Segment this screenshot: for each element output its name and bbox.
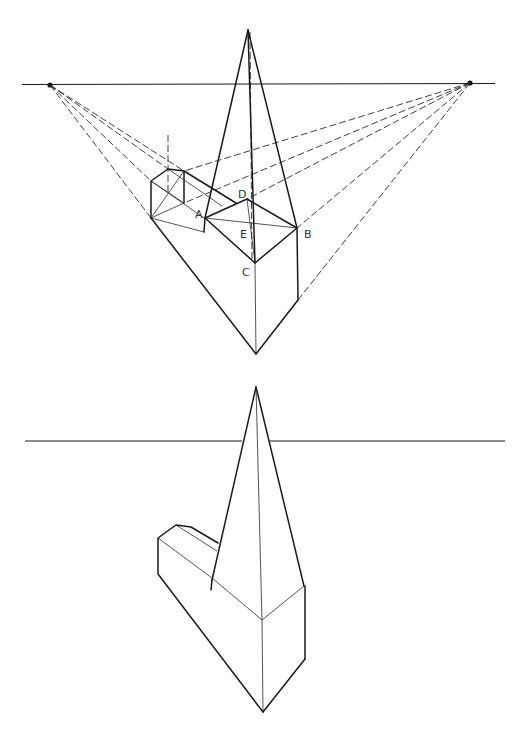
right-vp-construction-lines	[184, 83, 470, 300]
horizon-line-top	[22, 84, 495, 85]
spire-bottom	[211, 387, 304, 620]
label-b: B	[304, 228, 312, 241]
left-vp-construction-lines	[50, 85, 184, 218]
bottom-finished-panel	[25, 387, 505, 712]
top-construction-panel: A B C D E	[22, 30, 495, 354]
tower-body-top	[255, 228, 298, 354]
tower-top-square	[205, 199, 297, 263]
nave-building-bottom	[158, 525, 263, 712]
label-d: D	[238, 188, 246, 201]
label-a: A	[195, 208, 203, 221]
label-c: C	[242, 266, 250, 279]
label-e: E	[240, 228, 247, 241]
perspective-diagram: A B C D E	[0, 0, 529, 738]
tower-body-bottom	[212, 578, 305, 712]
